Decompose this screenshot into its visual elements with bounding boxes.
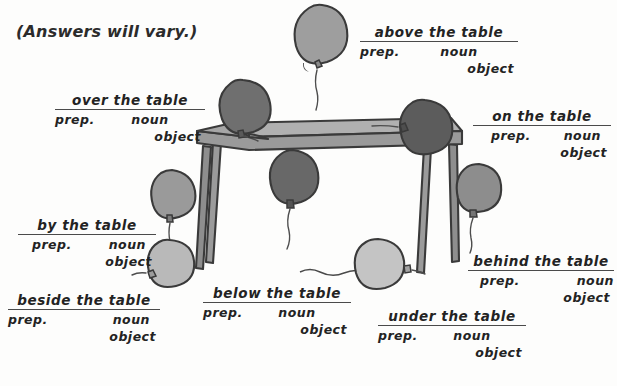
table-leg-back-left [196, 146, 211, 269]
label-prep-over-the-table: prep. [55, 112, 95, 127]
label-object-on-the-table: object [473, 143, 611, 160]
balloon-on [372, 100, 452, 155]
label-spacer [146, 237, 156, 252]
label-phrase-beside-the-table: beside the table [8, 292, 160, 309]
label-noun-below-the-table: noun [278, 305, 315, 320]
label-spacer [520, 273, 577, 288]
balloon-above [295, 5, 348, 110]
table-top-surface [232, 118, 462, 137]
label-spacer [95, 112, 131, 127]
label-spacer [316, 305, 351, 320]
label-phrase-under-the-table: under the table [378, 308, 526, 325]
label-spacer [418, 328, 453, 343]
label-group-over-the-table: over the table prep. noun object [55, 92, 205, 144]
label-object-beside-the-table: object [8, 327, 160, 344]
label-object-below-the-table: object [203, 320, 351, 337]
balloon-by [151, 170, 195, 241]
label-spacer [72, 237, 109, 252]
label-prep-by-the-table: prep. [32, 237, 72, 252]
label-spacer [243, 305, 278, 320]
label-group-below-the-table: below the table prep. noun object [203, 285, 351, 337]
label-noun-under-the-table: noun [453, 328, 490, 343]
label-group-by-the-table: by the table prep. noun object [18, 217, 156, 269]
label-spacer [169, 112, 205, 127]
label-phrase-by-the-table: by the table [18, 217, 156, 234]
label-spacer [491, 328, 526, 343]
label-noun-beside-the-table: noun [113, 312, 150, 327]
label-object-behind-the-table: object [468, 288, 614, 305]
label-prep-on-the-table: prep. [491, 128, 531, 143]
label-phrase-over-the-table: over the table [55, 92, 205, 109]
label-prep-above-the-table: prep. [360, 44, 400, 59]
table-front-edge [197, 131, 462, 150]
table-leg-front-right [417, 147, 431, 273]
label-spacer [150, 312, 160, 327]
label-noun-by-the-table: noun [109, 237, 146, 252]
balloon-behind [457, 164, 502, 253]
table-leg-front-left [206, 142, 221, 263]
balloon-under [355, 239, 425, 289]
balloon-over-left [219, 80, 270, 141]
label-object-over-the-table: object [55, 127, 205, 144]
label-noun-above-the-table: noun [440, 44, 477, 59]
label-phrase-on-the-table: on the table [473, 108, 611, 125]
label-noun-on-the-table: noun [564, 128, 601, 143]
label-group-beside-the-table: beside the table prep. noun object [8, 292, 160, 344]
label-spacer [400, 44, 440, 59]
label-prep-below-the-table: prep. [203, 305, 243, 320]
balloon-below [270, 150, 319, 249]
label-spacer [601, 128, 611, 143]
label-phrase-above-the-table: above the table [360, 24, 518, 41]
label-prep-behind-the-table: prep. [480, 273, 520, 288]
label-object-above-the-table: object [360, 59, 518, 76]
label-spacer [48, 312, 113, 327]
label-group-under-the-table: under the table prep. noun object [378, 308, 526, 360]
label-phrase-below-the-table: below the table [203, 285, 351, 302]
label-prep-under-the-table: prep. [378, 328, 418, 343]
ground-line [300, 270, 394, 279]
label-noun-behind-the-table: noun [577, 273, 614, 288]
page-title: (Answers will vary.) [16, 22, 198, 41]
label-group-above-the-table: above the table prep. noun object [360, 24, 518, 76]
label-phrase-behind-the-table: behind the table [468, 253, 614, 270]
label-spacer [531, 128, 564, 143]
label-spacer [478, 44, 518, 59]
label-object-by-the-table: object [18, 252, 156, 269]
label-prep-beside-the-table: prep. [8, 312, 48, 327]
table-graphic [196, 118, 462, 278]
worksheet-page: (Answers will vary.) .ol { stroke:#3a3a3… [0, 0, 617, 386]
label-object-under-the-table: object [378, 343, 526, 360]
table-leg-back-right [449, 144, 459, 262]
label-noun-over-the-table: noun [131, 112, 168, 127]
label-group-on-the-table: on the table prep. noun object [473, 108, 611, 160]
label-group-behind-the-table: behind the table prep. noun object [468, 253, 614, 305]
